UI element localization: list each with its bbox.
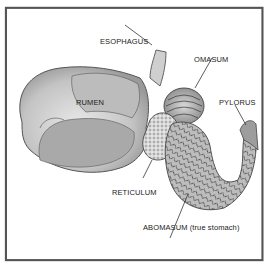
label-esophagus: ESOPHAGUS [100, 38, 148, 46]
label-pylorus: PYLORUS [219, 99, 256, 107]
label-omasum: OMASUM [194, 56, 228, 64]
rumen-shape [20, 67, 149, 173]
label-abomasum: ABOMASUM (true stomach) [143, 224, 240, 232]
esophagus-shape [150, 50, 166, 86]
label-reticulum: RETICULUM [112, 189, 157, 197]
label-rumen: RUMEN [76, 99, 104, 107]
